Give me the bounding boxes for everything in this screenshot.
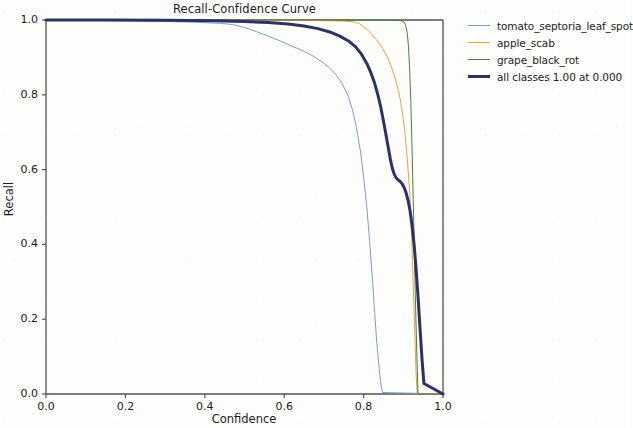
data-series-group — [46, 20, 443, 394]
legend-color-swatch — [468, 42, 490, 43]
legend-item[interactable]: all classes 1.00 at 0.000 — [468, 68, 624, 85]
legend-item-label: apple_scab — [497, 37, 555, 49]
x-tick-label: 0.0 — [26, 400, 66, 413]
x-tick-label: 0.2 — [105, 400, 145, 413]
y-tick-label: 1.0 — [4, 13, 38, 26]
axis-frame — [46, 20, 443, 394]
axis-ticks — [42, 20, 443, 398]
x-tick-label: 1.0 — [423, 400, 463, 413]
legend-item[interactable]: apple_scab — [468, 34, 624, 51]
legend-color-swatch — [468, 75, 490, 78]
x-axis-label: Confidence — [184, 412, 304, 426]
y-axis-label: Recall — [2, 169, 16, 229]
legend-item-label: all classes 1.00 at 0.000 — [497, 71, 622, 83]
series-line — [46, 20, 443, 394]
legend-item[interactable]: grape_black_rot — [468, 51, 624, 68]
chart-legend: tomato_septoria_leaf_spotapple_scabgrape… — [468, 17, 624, 85]
legend-color-swatch — [468, 25, 490, 26]
x-tick-label: 0.8 — [344, 400, 384, 413]
series-line — [46, 20, 443, 394]
series-line — [46, 20, 443, 394]
y-tick-label: 0.8 — [4, 88, 38, 101]
legend-item-label: grape_black_rot — [497, 54, 579, 66]
series-line — [46, 20, 443, 394]
legend-item-label: tomato_septoria_leaf_spot — [497, 20, 633, 32]
y-tick-label: 0.2 — [4, 312, 38, 325]
legend-item[interactable]: tomato_septoria_leaf_spot — [468, 17, 624, 34]
legend-color-swatch — [468, 59, 490, 60]
y-tick-label: 0.4 — [4, 237, 38, 250]
y-tick-label: 0.0 — [4, 387, 38, 400]
